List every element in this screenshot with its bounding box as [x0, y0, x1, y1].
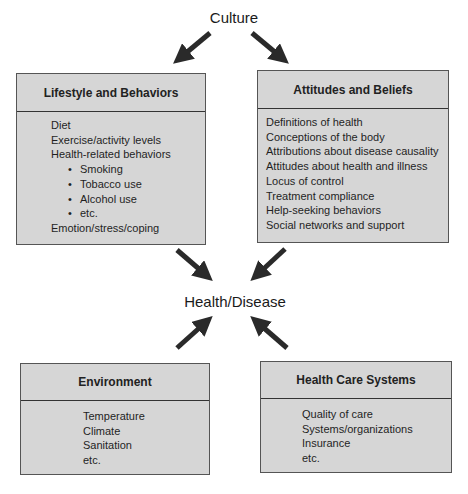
- lifestyle-behaviors-box: Lifestyle and Behaviors DietExercise/act…: [16, 73, 206, 245]
- list-item: Attitudes about health and illness: [266, 159, 448, 174]
- list-item: etc.: [51, 206, 205, 221]
- attitudes-beliefs-title: Attitudes and Beliefs: [258, 71, 448, 109]
- attitudes-beliefs-box: Attitudes and Beliefs Definitions of hea…: [257, 70, 449, 243]
- arrow-environment-to-health: [177, 322, 206, 348]
- list-item: Tobacco use: [51, 177, 205, 192]
- health-care-systems-box: Health Care Systems Quality of careSyste…: [260, 361, 452, 473]
- arrow-culture-to-attitudes: [252, 33, 282, 58]
- environment-box: Environment TemperatureClimateSanitation…: [20, 363, 210, 475]
- health-care-systems-title: Health Care Systems: [261, 362, 451, 399]
- list-item: Attributions about disease causality: [266, 144, 448, 159]
- list-item: Treatment compliance: [266, 189, 448, 204]
- list-item: Systems/organizations: [302, 422, 451, 437]
- list-item: Sanitation: [83, 438, 209, 453]
- list-item: Smoking: [51, 162, 205, 177]
- list-item: Alcohol use: [51, 192, 205, 207]
- list-item: etc.: [83, 453, 209, 468]
- attitudes-beliefs-list: Definitions of healthConceptions of the …: [258, 109, 448, 233]
- list-item: Help-seeking behaviors: [266, 203, 448, 218]
- lifestyle-behaviors-title: Lifestyle and Behaviors: [17, 74, 205, 112]
- arrow-attitudes-to-health: [257, 249, 285, 275]
- list-item: Social networks and support: [266, 218, 448, 233]
- health-care-systems-list: Quality of careSystems/organizationsInsu…: [261, 399, 451, 466]
- environment-title: Environment: [21, 364, 209, 401]
- list-item: Health-related behaviors: [51, 147, 205, 162]
- arrow-culture-to-lifestyle: [180, 33, 210, 58]
- list-item: Quality of care: [302, 407, 451, 422]
- list-item: Climate: [83, 424, 209, 439]
- list-item: Temperature: [83, 409, 209, 424]
- list-item: Diet: [51, 118, 205, 133]
- arrow-lifestyle-to-health: [177, 250, 206, 275]
- health-disease-node: Health/Disease: [160, 293, 310, 310]
- arrow-healthcare-to-health: [257, 322, 287, 348]
- lifestyle-behaviors-list: DietExercise/activity levelsHealth-relat…: [17, 112, 205, 236]
- list-item: etc.: [302, 451, 451, 466]
- culture-node: Culture: [184, 9, 284, 26]
- list-item: Conceptions of the body: [266, 130, 448, 145]
- list-item: Locus of control: [266, 174, 448, 189]
- list-item: Insurance: [302, 436, 451, 451]
- list-item: Emotion/stress/coping: [51, 221, 205, 236]
- list-item: Definitions of health: [266, 115, 448, 130]
- list-item: Exercise/activity levels: [51, 133, 205, 148]
- environment-list: TemperatureClimateSanitationetc.: [21, 401, 209, 468]
